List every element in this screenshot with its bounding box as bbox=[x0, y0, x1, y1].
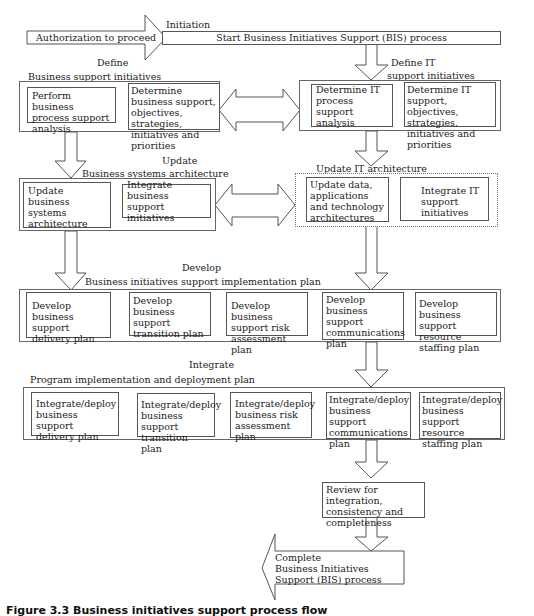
double-arrow-update bbox=[215, 184, 295, 226]
start-bis-text: Start Business Initiatives Support (BIS)… bbox=[163, 32, 500, 44]
complete-line1: Complete bbox=[275, 552, 382, 563]
figure-caption: Figure 3.3 Business initiatives support … bbox=[6, 604, 327, 616]
down-arrow-it-update-to-develop bbox=[355, 226, 388, 290]
initiation-phase-label: Initiation bbox=[166, 19, 210, 30]
step-develop-risk-assessment-plan: Develop business support risk assessment… bbox=[226, 292, 308, 336]
step-integrate-delivery-plan: Integrate/deploy business support delive… bbox=[31, 392, 119, 436]
complete-bis-label: Complete Business Initiatives Support (B… bbox=[275, 552, 382, 585]
down-arrow-business-update-to-develop bbox=[55, 231, 86, 290]
deployment-plan-title: Program implementation and deployment pl… bbox=[30, 374, 255, 385]
step-determine-it-support: Determine IT support, objectives, strate… bbox=[404, 82, 496, 127]
integrate-phase-label: Integrate bbox=[189, 359, 234, 370]
down-arrow-start-to-it bbox=[355, 44, 388, 80]
complete-line2: Business Initiatives bbox=[275, 563, 382, 574]
develop-phase-label: Develop bbox=[182, 262, 221, 273]
define-it-title-line1: Define IT bbox=[391, 57, 435, 68]
down-arrow-integrate-to-review bbox=[355, 440, 388, 478]
step-develop-resource-staffing-plan: Develop business support resource staffi… bbox=[415, 292, 497, 336]
review-box: Review for integration, consistency and … bbox=[322, 482, 425, 518]
step-integrate-risk-assessment-plan: Integrate/deploy business risk assessmen… bbox=[230, 392, 312, 438]
start-bis-box: Start Business Initiatives Support (BIS)… bbox=[162, 31, 501, 45]
step-develop-transition-plan: Develop business support transition plan bbox=[129, 292, 211, 336]
step-develop-communications-plan: Develop business support communications … bbox=[322, 292, 404, 340]
step-integrate-business-support-initiatives: Integrate business support initiatives bbox=[122, 184, 211, 218]
update-phase-label: Update bbox=[162, 155, 197, 166]
implementation-plan-title: Business initiatives support implementat… bbox=[85, 276, 321, 287]
down-arrow-develop-to-integrate bbox=[355, 342, 388, 387]
define-phase-label: Define bbox=[97, 57, 128, 68]
step-determine-business-support: Determine business support, objectives, … bbox=[128, 83, 220, 130]
step-integrate-transition-plan: Integrate/deploy business support transi… bbox=[137, 393, 215, 437]
step-perform-business-process-support-analysis: Perform business process support analysi… bbox=[27, 87, 116, 123]
complete-line3: Support (BIS) process bbox=[275, 574, 382, 585]
down-arrow-it-define-to-update bbox=[355, 131, 388, 166]
step-update-data-applications-technology: Update data, applications and technology… bbox=[306, 177, 389, 222]
step-determine-it-process-support-analysis: Determine IT process support analysis bbox=[311, 84, 393, 127]
double-arrow-define bbox=[219, 89, 300, 131]
step-integrate-resource-staffing-plan: Integrate/deploy business support resour… bbox=[419, 392, 501, 439]
step-develop-delivery-plan: Develop business support delivery plan bbox=[26, 292, 111, 338]
step-integrate-communications-plan: Integrate/deploy business support commun… bbox=[326, 392, 411, 439]
step-update-business-systems-architecture: Update business systems architecture bbox=[23, 182, 111, 228]
step-integrate-it-support-initiatives: Integrate IT support initiatives bbox=[400, 177, 489, 221]
authorization-label: Authorization to proceed bbox=[36, 32, 156, 43]
